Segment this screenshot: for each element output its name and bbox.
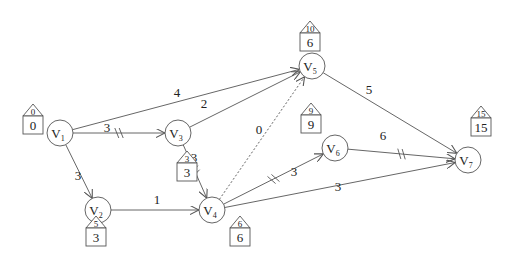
- edge-v1-v2: 3: [66, 145, 92, 199]
- time-box-v4: 66: [230, 216, 250, 246]
- edges-layer: 43323103356: [66, 69, 457, 210]
- edge-weight-label: 2: [201, 96, 208, 111]
- latest-time-value: 15: [475, 120, 488, 135]
- edge-v4-v6: 3: [224, 154, 324, 204]
- latest-time-value: 3: [93, 230, 100, 245]
- latest-time-value: 6: [237, 230, 244, 245]
- diagram-canvas: 43323103356 V1V2V3V4V5V6V7 0053336610699…: [0, 0, 509, 266]
- node-v4: V4: [199, 197, 225, 223]
- node-v5: V5: [299, 53, 325, 79]
- edge-v3-v5: 2: [190, 72, 301, 127]
- earliest-time-value: 3: [185, 154, 190, 164]
- network-diagram: 43323103356 V1V2V3V4V5V6V7 0053336610699…: [0, 0, 509, 266]
- edge-weight-label: 3: [75, 168, 82, 183]
- edge-v4-v5: 0: [219, 77, 304, 200]
- edge-v6-v7: 6: [348, 128, 455, 159]
- edge-arrow: [348, 149, 455, 159]
- edge-arrow: [219, 77, 304, 200]
- edge-weight-label: 4: [174, 85, 181, 100]
- edge-weight-label: 6: [380, 128, 387, 143]
- latest-time-value: 9: [308, 117, 315, 132]
- node-v3: V3: [165, 120, 191, 146]
- edge-weight-label: 1: [154, 192, 161, 207]
- earliest-time-value: 0: [31, 107, 36, 117]
- earliest-time-value: 10: [306, 24, 316, 34]
- time-box-v7: 1515: [471, 106, 491, 136]
- time-box-v5: 106: [300, 21, 320, 51]
- edge-v2-v4: 1: [111, 192, 199, 210]
- latest-time-value: 3: [184, 165, 191, 180]
- earliest-time-value: 6: [238, 219, 243, 229]
- edge-v4-v7: 3: [225, 162, 455, 207]
- latest-time-value: 6: [307, 35, 314, 50]
- earliest-time-value: 9: [309, 106, 314, 116]
- node-v1: V1: [47, 120, 73, 146]
- node-v7: V7: [455, 147, 481, 173]
- edge-weight-label: 3: [335, 179, 342, 194]
- edge-weight-label: 3: [291, 164, 298, 179]
- latest-time-value: 0: [30, 118, 37, 133]
- edge-arrow: [224, 154, 324, 204]
- node-v6: V6: [322, 135, 348, 161]
- edge-weight-label: 0: [256, 122, 263, 137]
- edge-weight-label: 3: [104, 120, 111, 135]
- edge-v1-v3: 3: [73, 120, 165, 138]
- time-box-v1: 00: [23, 104, 43, 134]
- time-box-v6: 99: [301, 103, 321, 133]
- earliest-time-value: 15: [477, 109, 487, 119]
- earliest-time-value: 5: [94, 219, 99, 229]
- edge-weight-label: 5: [366, 82, 373, 97]
